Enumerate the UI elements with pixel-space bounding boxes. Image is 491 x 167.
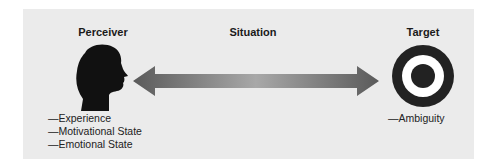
bullseye-target-icon [390,43,456,109]
target-heading: Target [393,26,453,38]
factor-experience: —Experience [48,112,142,125]
human-head-silhouette-icon [71,43,131,111]
target-factors-list: —Ambiguity [388,112,445,125]
factor-ambiguity: —Ambiguity [388,112,445,125]
double-headed-arrow-icon [133,66,379,96]
diagram-panel: Perceiver Situation Target —Experience —… [23,9,474,159]
perceiver-factors-list: —Experience —Motivational State —Emotion… [48,112,142,151]
factor-emotional-state: —Emotional State [48,138,142,151]
factor-motivational-state: —Motivational State [48,125,142,138]
situation-heading: Situation [213,26,293,38]
perceiver-heading: Perceiver [73,26,133,38]
